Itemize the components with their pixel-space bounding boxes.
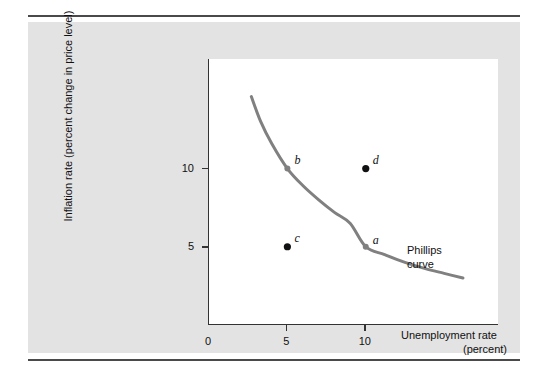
y-tick-mark-5 bbox=[202, 246, 208, 248]
bottom-rule bbox=[28, 359, 520, 361]
curve-annotation-line1: Phillips bbox=[407, 244, 442, 256]
data-point-d[interactable] bbox=[362, 165, 369, 172]
x-tick-mark-10 bbox=[364, 325, 366, 331]
y-tick-label-10: 10 bbox=[170, 162, 194, 174]
x-axis-title-line1: Unemployment rate bbox=[401, 329, 497, 341]
y-tick-mark-10 bbox=[202, 168, 208, 170]
data-point-c[interactable] bbox=[284, 243, 291, 250]
x-tick-label-10: 10 bbox=[353, 335, 377, 347]
x-tick-label-5: 5 bbox=[274, 335, 298, 347]
figure-panel: Inflation rate (percent change in price … bbox=[28, 22, 520, 353]
x-axis-title: Unemployment rate (percent) bbox=[401, 328, 521, 356]
plot-area bbox=[208, 59, 498, 325]
x-tick-label-0: 0 bbox=[196, 335, 220, 347]
data-point-label-a: a bbox=[373, 233, 379, 248]
phillips-curve-svg bbox=[209, 59, 499, 325]
data-point-label-b: b bbox=[294, 153, 300, 168]
top-rule bbox=[28, 15, 520, 17]
data-point-a[interactable] bbox=[363, 244, 369, 250]
curve-annotation-line2: curve bbox=[407, 258, 434, 270]
data-point-b[interactable] bbox=[284, 166, 290, 172]
phillips-curve-annotation: Phillips curve bbox=[407, 243, 477, 271]
data-point-label-c: c bbox=[294, 231, 299, 246]
figure-container: Inflation rate (percent change in price … bbox=[0, 0, 547, 375]
y-axis-title: Inflation rate (percent change in price … bbox=[62, 0, 74, 241]
x-tick-mark-5 bbox=[286, 325, 288, 331]
y-tick-label-5: 5 bbox=[170, 240, 194, 252]
data-point-label-d: d bbox=[373, 153, 379, 168]
x-axis-title-line2: (percent) bbox=[401, 342, 521, 356]
